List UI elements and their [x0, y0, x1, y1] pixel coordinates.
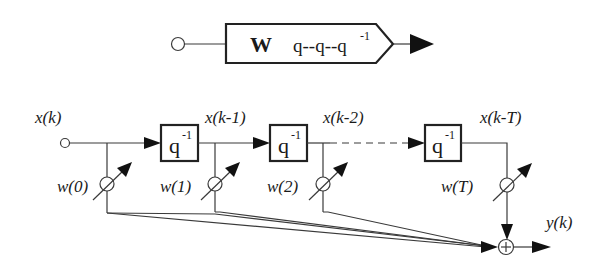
signal-line [461, 143, 507, 178]
weight-2 [309, 143, 348, 212]
variable-weight-icon [500, 178, 514, 192]
operator-label: q--q--q [293, 35, 347, 56]
input-label: x(k) [34, 108, 62, 127]
fir-filter-diagram: W q--q--q -1 x(k) q -1 x(k-1) q -1 x(k-2… [0, 0, 613, 272]
operator-superscript: -1 [360, 29, 370, 43]
sum-line-0b [107, 213, 486, 247]
tapped-delay-line: x(k) q -1 x(k-1) q -1 x(k-2) q -1 x(k-T) [34, 108, 573, 255]
weight-label-0: w(0) [57, 177, 89, 196]
arrow-head-icon [481, 241, 498, 253]
output-label: y(k) [544, 213, 573, 232]
input-node-icon [172, 38, 185, 51]
weight-label-2: w(2) [267, 177, 299, 196]
arrow-head-icon [144, 137, 161, 149]
svg-text:-1: -1 [445, 128, 455, 142]
tap-label-x-k-2: x(k-2) [322, 108, 364, 127]
output-arrow-icon [410, 34, 434, 54]
summation-node [499, 240, 514, 255]
delay-block-t: q -1 [425, 125, 461, 161]
variable-weight-icon [100, 177, 114, 191]
arrow-head-icon [408, 137, 425, 149]
arrow-head-icon [501, 224, 513, 240]
weight-label-1: w(1) [160, 177, 192, 196]
weight-t [493, 163, 532, 240]
svg-text:q: q [278, 133, 289, 158]
compact-symbol: W q--q--q -1 [172, 24, 435, 63]
delay-block-1: q -1 [161, 125, 198, 161]
sum-line-2 [323, 212, 486, 246]
weight-matrix-label: W [250, 32, 272, 57]
delay-block-2: q -1 [270, 125, 307, 161]
svg-text:-1: -1 [182, 128, 192, 142]
weight-label-t: w(T) [441, 177, 473, 196]
output-arrow-icon [532, 241, 551, 253]
input-node-icon [61, 139, 70, 148]
svg-text:q: q [432, 133, 443, 158]
weight-0 [93, 143, 132, 213]
weight-1 [201, 143, 240, 212]
variable-weight-icon [208, 177, 222, 191]
variable-weight-icon [316, 177, 330, 191]
svg-text:q: q [169, 133, 180, 158]
tap-label-x-k-t: x(k-T) [479, 108, 522, 127]
arrow-head-icon [253, 137, 270, 149]
svg-text:-1: -1 [291, 128, 301, 142]
tap-label-x-k-1: x(k-1) [204, 108, 246, 127]
